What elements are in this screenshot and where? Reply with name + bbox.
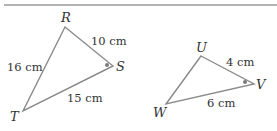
vertex-label-s: S [116,59,125,74]
vertex-label-v: V [256,77,267,92]
side-length-uv: 4 cm [226,55,254,69]
side-length-rt: 16 cm [7,60,43,74]
similar-triangles-diagram: R S T 10 cm 16 cm 15 cm U V W 4 cm 6 cm [0,0,277,131]
vertex-label-t: T [10,109,20,124]
angle-marker-s [105,63,109,67]
side-length-st: 15 cm [67,91,103,105]
angle-marker-v [243,80,247,84]
side-length-rs: 10 cm [91,34,127,48]
vertex-label-w: W [153,105,168,120]
vertex-label-r: R [60,10,71,25]
side-length-vw: 6 cm [207,96,235,110]
diagram-svg: R S T 10 cm 16 cm 15 cm U V W 4 cm 6 cm [0,0,277,131]
vertex-label-u: U [196,40,208,55]
